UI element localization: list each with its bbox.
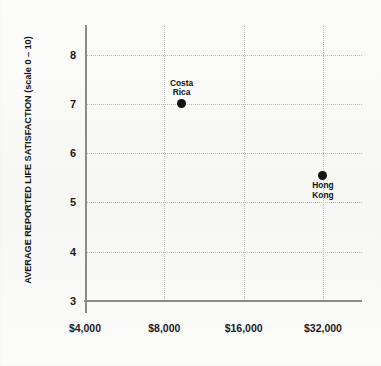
x-tick-label-0: $4,000 bbox=[69, 322, 101, 334]
y-tick-label-7: 7 bbox=[70, 98, 76, 110]
y-tick-label-6: 6 bbox=[70, 147, 76, 159]
data-point-costa-rica[interactable] bbox=[177, 99, 186, 108]
gridline-x-3 bbox=[323, 25, 324, 301]
gridline-y-6 bbox=[85, 153, 362, 154]
y-axis-title: AVERAGE REPORTED LIFE SATISFACTION (scal… bbox=[23, 25, 33, 295]
data-point-label-costa-rica: Costa Rica bbox=[170, 79, 193, 98]
gridline-y-5 bbox=[85, 202, 362, 203]
scatter-chart-figure: AVERAGE REPORTED LIFE SATISFACTION (scal… bbox=[0, 0, 381, 366]
gridline-y-7 bbox=[85, 104, 362, 105]
x-tick-label-1: $8,000 bbox=[148, 322, 180, 334]
y-tick-label-4: 4 bbox=[70, 246, 76, 258]
data-point-label-hong-kong: Hong Kong bbox=[303, 181, 342, 200]
y-tick-label-3: 3 bbox=[70, 295, 76, 307]
x-tick-label-2: $16,000 bbox=[225, 322, 263, 334]
y-tick-label-8: 8 bbox=[70, 49, 76, 61]
gridline-y-8 bbox=[85, 55, 362, 56]
gridline-y-4 bbox=[85, 252, 362, 253]
y-tick-label-5: 5 bbox=[70, 196, 76, 208]
gridline-x-1 bbox=[164, 25, 165, 301]
data-point-hong-kong[interactable] bbox=[318, 171, 327, 180]
gridline-x-2 bbox=[244, 25, 245, 301]
plot-area: 876543 $4,000$8,000$16,000$32,000 Costa … bbox=[85, 25, 362, 301]
x-axis-line bbox=[84, 300, 362, 302]
x-tick-label-3: $32,000 bbox=[304, 322, 342, 334]
y-axis-line bbox=[85, 25, 87, 313]
